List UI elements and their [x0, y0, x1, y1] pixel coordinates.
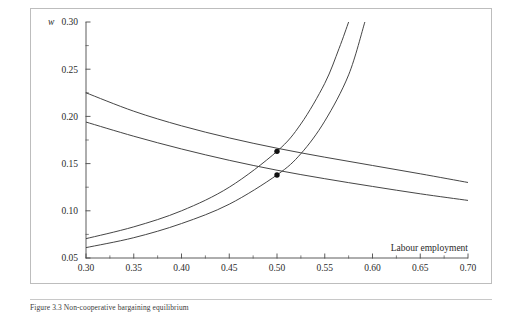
- y-tick-label: 0.10: [61, 206, 78, 216]
- y-tick-label: 0.15: [61, 159, 78, 169]
- figure-caption: Figure 3.3 Non-cooperative bargaining eq…: [30, 303, 492, 312]
- curve-demand-upper: [86, 93, 468, 183]
- curve-demand-lower: [86, 122, 468, 200]
- y-tick-label: 0.05: [61, 253, 78, 263]
- y-tick-label: 0.20: [61, 112, 78, 122]
- x-tick-label: 0.50: [269, 263, 286, 273]
- marker-equilibrium-upper: [274, 149, 279, 154]
- curve-supply-left: [86, 22, 349, 239]
- x-tick-label: 0.70: [460, 263, 477, 273]
- x-tick-label: 0.45: [221, 263, 238, 273]
- x-tick-label: 0.30: [78, 263, 95, 273]
- marker-equilibrium-lower: [274, 172, 279, 177]
- x-tick-label: 0.35: [125, 263, 142, 273]
- figure-container: 0.300.350.400.450.500.550.600.650.700.05…: [0, 0, 508, 323]
- caption-divider: [30, 299, 492, 300]
- chart-plot-area: 0.300.350.400.450.500.550.600.650.700.05…: [0, 0, 508, 323]
- y-tick-label: 0.30: [61, 17, 78, 27]
- x-tick-label: 0.40: [173, 263, 190, 273]
- x-tick-label: 0.60: [364, 263, 381, 273]
- y-tick-label: 0.25: [61, 65, 78, 75]
- x-tick-label: 0.55: [316, 263, 333, 273]
- x-axis-title: Labour employment: [391, 243, 469, 253]
- x-tick-label: 0.65: [412, 263, 429, 273]
- y-axis-variable-label: w: [48, 17, 55, 27]
